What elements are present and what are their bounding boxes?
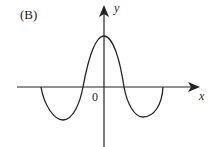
x-axis-label: x [198, 89, 205, 103]
panel-label: (B) [20, 7, 37, 22]
y-axis-label: y [113, 1, 120, 15]
function-graph: (B) y x 0 [0, 0, 218, 147]
function-curve [41, 36, 163, 120]
origin-label: 0 [92, 90, 98, 104]
